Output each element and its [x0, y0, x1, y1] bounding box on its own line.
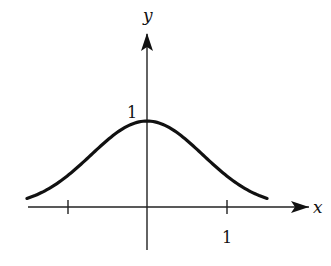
y-axis-label: y: [142, 5, 153, 25]
x-axis-label: x: [313, 197, 323, 217]
y-peak-label: 1: [127, 103, 137, 122]
x-tick-label-one: 1: [222, 228, 232, 247]
bell-curve-chart: y x 1 1: [0, 0, 331, 266]
